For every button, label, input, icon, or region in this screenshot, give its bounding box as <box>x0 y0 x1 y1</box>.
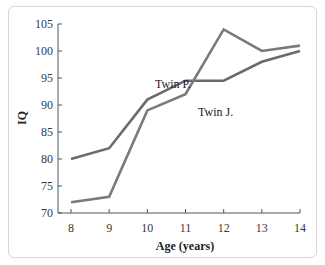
y-axis-title: IQ <box>15 111 29 125</box>
series-label-twin-j: Twin J. <box>198 105 233 119</box>
x-axis-title: Age (years) <box>156 239 214 253</box>
series-line-twin-p <box>71 51 300 159</box>
y-tick-label: 95 <box>41 71 53 85</box>
y-tick-label: 85 <box>41 125 53 139</box>
x-tick-label: 13 <box>256 221 268 235</box>
x-tick-label: 10 <box>141 221 153 235</box>
series-lines <box>71 29 300 202</box>
x-tick-label: 9 <box>106 221 112 235</box>
line-chart: 707580859095100105891011121314 Twin P. T… <box>0 0 325 265</box>
x-tick-label: 14 <box>294 221 306 235</box>
x-tick-label: 12 <box>218 221 230 235</box>
y-tick-label: 75 <box>41 179 53 193</box>
y-tick-label: 90 <box>41 98 53 112</box>
x-tick-label: 11 <box>180 221 192 235</box>
y-tick-label: 105 <box>35 17 53 31</box>
y-tick-label: 100 <box>35 44 53 58</box>
y-tick-label: 80 <box>41 152 53 166</box>
x-tick-label: 8 <box>68 221 74 235</box>
y-tick-label: 70 <box>41 206 53 220</box>
series-line-twin-j <box>71 29 300 202</box>
series-label-twin-p: Twin P. <box>155 77 191 91</box>
